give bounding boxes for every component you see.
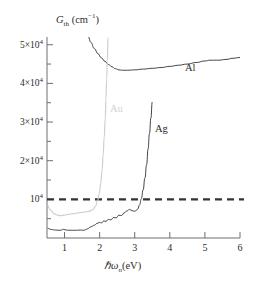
curve-ag xyxy=(48,102,153,230)
axis-ticks xyxy=(47,45,240,238)
data-curves xyxy=(48,37,240,230)
axis-lines xyxy=(47,37,240,238)
plot-canvas xyxy=(0,0,259,282)
curve-au xyxy=(48,37,108,216)
curve-al xyxy=(88,37,240,70)
chart-figure: Gth (cm−1) ℏωn(eV) Al Au Ag 1042×1043×10… xyxy=(0,0,259,282)
